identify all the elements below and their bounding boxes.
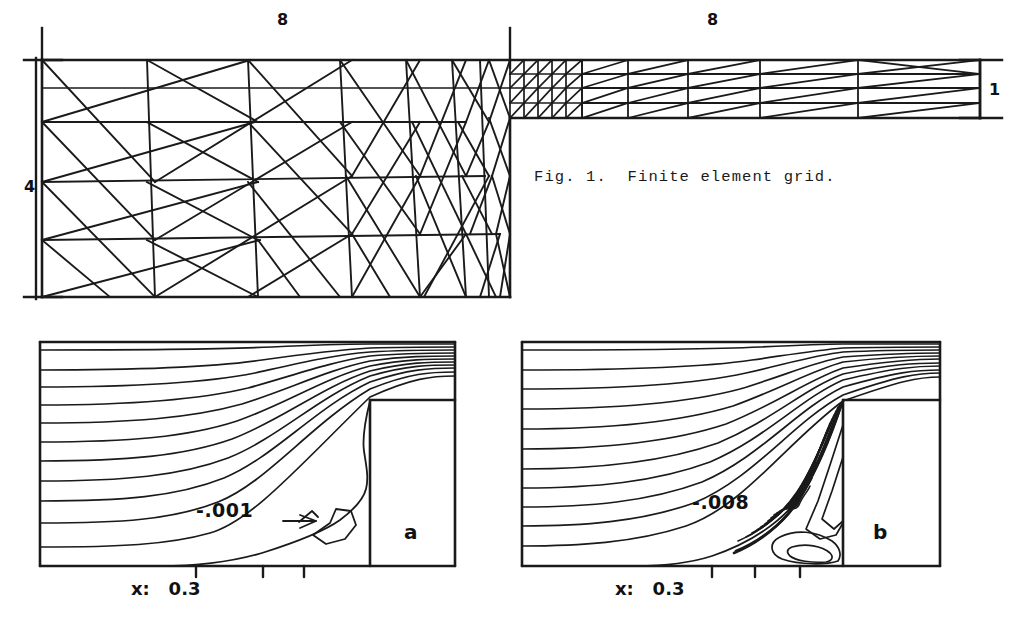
panel-a-letter: a — [404, 520, 418, 544]
grid-dim-label-top-left: 8 — [277, 10, 288, 29]
panel-a-axis-label: x: 0.3 — [131, 578, 201, 599]
grid-outer-boundary — [42, 60, 980, 297]
grid-dim-label-right-height: 1 — [989, 80, 1000, 99]
dimension-lines — [24, 28, 1002, 299]
panel-b-contour-label: -.008 — [692, 491, 749, 513]
panel-a-label-leader — [283, 515, 316, 528]
panel-b-axis-label: x: 0.3 — [615, 578, 685, 599]
panel-b-streamlines — [522, 344, 940, 546]
finite-element-grid-drawing — [0, 0, 1014, 320]
panel-b-separation-line — [636, 401, 843, 566]
grid-dim-label-left-height: 4 — [24, 177, 35, 196]
grid-dim-label-top-right: 8 — [707, 10, 718, 29]
figure-container: 8 8 4 1 Fig. 1. Finite element grid. — [0, 0, 1014, 625]
panel-b-secondary-contours — [772, 425, 843, 564]
grid-channel-mesh — [582, 60, 980, 118]
panel-b-axis-ticks — [712, 566, 800, 577]
panel-a-group — [40, 342, 455, 577]
figure-caption: Fig. 1. Finite element grid. — [534, 168, 836, 186]
panel-a-axis-ticks — [196, 566, 304, 577]
panel-a-contour-label: -.001 — [196, 499, 253, 521]
panel-b-letter: b — [873, 520, 887, 544]
